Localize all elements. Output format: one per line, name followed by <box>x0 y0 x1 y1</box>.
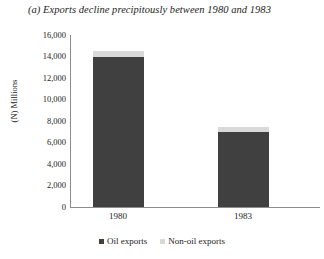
y-axis-title: (N) Millions <box>9 56 19 146</box>
bar-group[interactable] <box>93 51 144 207</box>
bar-segment[interactable] <box>93 57 144 208</box>
y-tick-label: 12,000 <box>22 74 66 83</box>
legend-label: Oil exports <box>107 236 147 246</box>
chart-title: (a) Exports decline precipitously betwee… <box>28 3 322 16</box>
legend-label: Non-oil exports <box>168 236 225 246</box>
y-tick-label: 4,000 <box>22 160 66 169</box>
legend-item[interactable]: Oil exports <box>99 236 147 246</box>
x-tick-label: 1983 <box>203 211 283 221</box>
y-tick-label: 16,000 <box>22 31 66 40</box>
chart-legend: Oil exportsNon-oil exports <box>0 236 324 246</box>
y-axis-tick-labels: 16,00014,00012,00010,0008,0006,0004,0002… <box>20 0 66 259</box>
y-tick-label: 2,000 <box>22 181 66 190</box>
y-tick-label: 8,000 <box>22 117 66 126</box>
plot-area <box>70 35 320 207</box>
y-tick-label: 14,000 <box>22 52 66 61</box>
legend-item[interactable]: Non-oil exports <box>160 236 225 246</box>
bar-segment[interactable] <box>218 132 269 207</box>
x-axis-line <box>70 207 320 208</box>
legend-swatch-icon <box>99 239 104 244</box>
bar-group[interactable] <box>218 127 269 207</box>
legend-swatch-icon <box>160 239 165 244</box>
y-tick-label: 6,000 <box>22 138 66 147</box>
y-tick-label: 0 <box>22 203 66 212</box>
y-tick-label: 10,000 <box>22 95 66 104</box>
x-tick-label: 1980 <box>78 211 158 221</box>
